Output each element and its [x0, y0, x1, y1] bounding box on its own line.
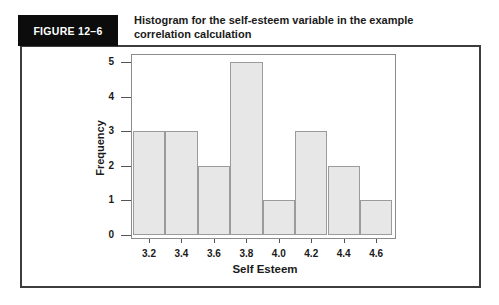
histogram-bar	[198, 166, 230, 235]
x-axis-tick	[246, 239, 247, 243]
x-axis-tick-label: 3.6	[199, 248, 229, 259]
x-axis-tick-label: 3.8	[231, 248, 261, 259]
x-axis-tick-label: 4.0	[264, 248, 294, 259]
figure-title-line-2: correlation calculation	[134, 27, 486, 41]
histogram-bar	[165, 131, 197, 235]
histogram-bar	[328, 166, 360, 235]
x-axis-tick-label: 3.2	[134, 248, 164, 259]
y-axis-tick	[121, 200, 131, 201]
x-axis-title: Self Esteem	[190, 263, 340, 275]
histogram-bar	[295, 131, 327, 235]
figure-box: 3.23.43.63.84.04.24.44.6012345 Self Este…	[20, 45, 481, 288]
y-axis-title: Frequency	[94, 55, 108, 241]
y-axis-tick	[121, 97, 131, 98]
histogram-bar	[230, 62, 262, 235]
x-axis-tick	[149, 239, 150, 243]
figure-title: Histogram for the self-esteem variable i…	[134, 13, 486, 41]
x-axis-tick	[311, 239, 312, 243]
x-axis-tick	[279, 239, 280, 243]
histogram-bar	[360, 200, 392, 235]
x-axis-tick-label: 4.2	[296, 248, 326, 259]
y-axis-tick	[121, 62, 131, 63]
histogram-bar	[263, 200, 295, 235]
x-axis-tick	[344, 239, 345, 243]
x-axis-tick	[214, 239, 215, 243]
x-axis-tick	[181, 239, 182, 243]
x-axis-tick-label: 4.4	[329, 248, 359, 259]
figure-title-line-1: Histogram for the self-esteem variable i…	[134, 13, 486, 27]
y-axis-tick	[121, 166, 131, 167]
y-axis-tick	[121, 131, 131, 132]
y-axis-tick	[121, 235, 131, 236]
x-axis-tick-label: 4.6	[361, 248, 391, 259]
histogram-bar	[133, 131, 165, 235]
bars-layer	[132, 55, 395, 238]
figure-label: FIGURE 12–6	[33, 25, 102, 37]
x-axis-tick-label: 3.4	[166, 248, 196, 259]
figure-label-box: FIGURE 12–6	[18, 15, 118, 46]
plot-area	[131, 54, 396, 239]
page: FIGURE 12–6 Histogram for the self-estee…	[0, 0, 499, 305]
x-axis-tick	[376, 239, 377, 243]
